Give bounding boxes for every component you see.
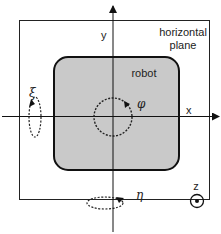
z-axis-dot-icon — [195, 199, 199, 203]
y-axis-label: y — [101, 29, 107, 41]
x-axis-label: x — [186, 104, 192, 116]
roll-symbol: ξ — [29, 86, 37, 100]
z-axis-label: z — [193, 180, 199, 192]
robot-body — [54, 57, 179, 170]
robot-coordinate-diagram: horizontal plane robot y x z φ ξ η — [0, 0, 221, 234]
robot-label: robot — [131, 67, 156, 79]
plane-label-line1: horizontal — [159, 26, 207, 38]
pitch-symbol: η — [136, 188, 144, 202]
yaw-symbol: φ — [137, 97, 146, 111]
plane-label-line2: plane — [170, 39, 197, 51]
